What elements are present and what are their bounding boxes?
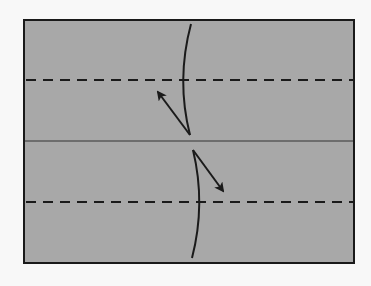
origami-diagram [0, 0, 371, 286]
